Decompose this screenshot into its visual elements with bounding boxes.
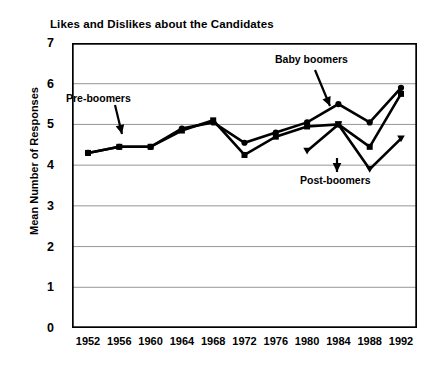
- x-tick-label: 1992: [389, 336, 413, 347]
- x-axis-tick-labels: 1952195619601964196819721976198019841988…: [0, 336, 438, 356]
- data-point-marker-triangle: [303, 148, 311, 155]
- x-tick-label: 1976: [264, 336, 288, 347]
- data-point-marker-square: [398, 91, 404, 97]
- y-axis-tick-labels: 01234567: [22, 36, 54, 332]
- chart-title: Likes and Dislikes about the Candidates: [50, 18, 274, 30]
- x-tick-label: 1988: [357, 336, 381, 347]
- annotation-post-boomers: Post-boomers: [300, 174, 371, 186]
- x-tick-label: 1984: [326, 336, 350, 347]
- annotation-arrow-head-pre-boomers: [116, 124, 125, 134]
- data-point-marker-square: [179, 128, 185, 134]
- data-point-marker-circle: [367, 119, 373, 125]
- y-tick-label: 6: [47, 77, 54, 90]
- data-point-marker-square: [148, 144, 154, 150]
- x-tick-label: 1980: [295, 336, 319, 347]
- x-tick-label: 1952: [76, 336, 100, 347]
- x-tick-label: 1968: [201, 336, 225, 347]
- x-tick-label: 1964: [170, 336, 194, 347]
- data-point-marker-square: [367, 144, 373, 150]
- y-tick-label: 1: [47, 281, 54, 294]
- y-tick-label: 3: [47, 200, 54, 213]
- series-line-post-boomers: [307, 124, 401, 169]
- data-point-marker-square: [273, 134, 279, 140]
- data-point-marker-square: [85, 150, 91, 156]
- y-tick-label: 4: [47, 159, 54, 172]
- annotation-baby-boomers: Baby boomers: [275, 53, 348, 65]
- data-point-marker-circle: [398, 85, 404, 91]
- data-point-marker-triangle: [366, 166, 374, 173]
- data-point-marker-square: [242, 152, 248, 158]
- y-tick-label: 7: [47, 37, 54, 50]
- y-tick-label: 2: [47, 240, 54, 253]
- data-point-marker-square: [304, 123, 310, 129]
- annotation-pre-boomers: Pre-boomers: [66, 92, 131, 104]
- x-tick-label: 1972: [232, 336, 256, 347]
- x-tick-label: 1956: [107, 336, 131, 347]
- y-tick-label: 0: [47, 322, 54, 335]
- data-point-marker-circle: [241, 140, 247, 146]
- annotation-arrow-head-post-boomers: [333, 163, 342, 172]
- chart-figure: Likes and Dislikes about the Candidates …: [0, 0, 438, 369]
- data-point-marker-square: [116, 144, 122, 150]
- y-tick-label: 5: [47, 118, 54, 131]
- data-point-marker-square: [210, 117, 216, 123]
- x-tick-label: 1960: [138, 336, 162, 347]
- data-point-marker-circle: [335, 101, 341, 107]
